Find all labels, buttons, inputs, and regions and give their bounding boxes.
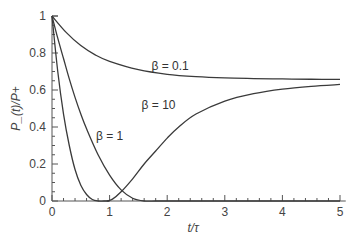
y-tick-label: 0.8 <box>29 46 46 60</box>
y-tick-label: 0 <box>39 194 46 208</box>
x-tick-label: 0 <box>49 205 56 219</box>
series-label: β = 1 <box>96 129 124 143</box>
y-tick-label: 0.2 <box>29 157 46 171</box>
y-tick-label: 1 <box>39 9 46 23</box>
x-tick-label: 1 <box>106 205 113 219</box>
curve--0-1 <box>52 16 340 79</box>
y-axis-title: P_(t)/P+ <box>9 86 23 130</box>
x-tick-label: 4 <box>279 205 286 219</box>
series-label: β = 0.1 <box>151 59 189 73</box>
x-tick-label: 5 <box>337 205 344 219</box>
x-tick-label: 3 <box>221 205 228 219</box>
chart: 01234500.20.40.60.81t/τP_(t)/P+ β = 0.1β… <box>0 0 361 240</box>
series-label: β = 10 <box>142 98 176 112</box>
x-tick-label: 2 <box>164 205 171 219</box>
curves <box>52 16 340 201</box>
y-tick-label: 0.6 <box>29 83 46 97</box>
curve--10 <box>52 16 340 201</box>
x-axis-title: t/τ <box>188 221 201 235</box>
curve--1 <box>52 16 110 201</box>
y-tick-label: 0.4 <box>29 120 46 134</box>
